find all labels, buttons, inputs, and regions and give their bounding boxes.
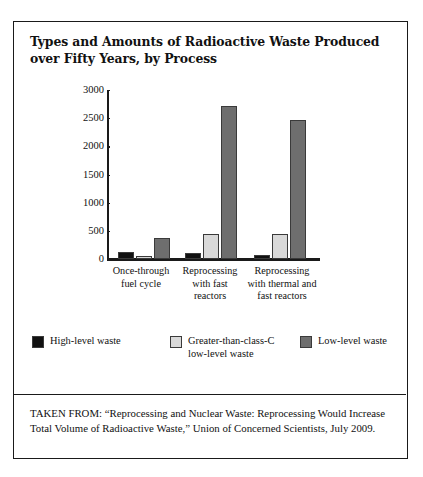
y-axis-tick-label: 1000 bbox=[60, 198, 104, 208]
y-axis-tick-label: 3000 bbox=[60, 85, 104, 95]
bar bbox=[154, 238, 170, 259]
bar bbox=[185, 253, 201, 259]
legend-label: Greater-than-class-Clow-level waste bbox=[188, 334, 274, 360]
y-axis-tick-label: 500 bbox=[60, 226, 104, 236]
bar bbox=[118, 252, 134, 259]
y-axis-tick-label: 2500 bbox=[60, 113, 104, 123]
y-axis-tick-0: 0 bbox=[54, 254, 104, 264]
legend-swatch-icon bbox=[32, 336, 44, 348]
legend-swatch-icon bbox=[300, 336, 312, 348]
legend-label: High-level waste bbox=[50, 334, 121, 347]
x-axis-category-label-line: fast reactors bbox=[232, 290, 332, 303]
y-axis-tick-label: 1500 bbox=[60, 170, 104, 180]
chart-plot-area: 050010001500200025003000 Once-throughfue… bbox=[14, 22, 409, 322]
legend-swatch-icon bbox=[170, 336, 182, 348]
y-axis-tick-3000: 3000 bbox=[54, 85, 104, 95]
y-axis-tick-mark bbox=[107, 259, 110, 260]
y-axis-tick-1500: 1500 bbox=[54, 170, 104, 180]
legend-label-line2: low-level waste bbox=[188, 347, 274, 360]
bar bbox=[290, 120, 306, 259]
x-axis-category-label: Reprocessingwith thermal andfast reactor… bbox=[232, 265, 332, 303]
bar bbox=[203, 234, 219, 259]
y-axis-tick-label: 2000 bbox=[60, 141, 104, 151]
bar bbox=[254, 255, 270, 259]
bars-layer bbox=[107, 90, 322, 259]
x-axis-category-label-line: Reprocessing bbox=[232, 265, 332, 278]
figure-container: Types and Amounts of Radioactive Waste P… bbox=[13, 21, 408, 459]
section-divider bbox=[14, 394, 406, 395]
bar bbox=[272, 234, 288, 259]
x-axis-category-label-line: Once-through bbox=[101, 265, 181, 278]
legend-label: Low-level waste bbox=[318, 334, 387, 347]
bar bbox=[136, 256, 152, 259]
y-axis-tick-2000: 2000 bbox=[54, 141, 104, 151]
y-axis-tick-label: 0 bbox=[60, 254, 104, 264]
chart-legend: High-level wasteGreater-than-class-Clow-… bbox=[32, 334, 392, 380]
y-axis-tick-500: 500 bbox=[54, 226, 104, 236]
bar bbox=[221, 106, 237, 259]
x-axis-category-label-line: with thermal and bbox=[232, 278, 332, 291]
source-citation: TAKEN FROM: “Reprocessing and Nuclear Wa… bbox=[30, 406, 390, 436]
x-axis-category-label: Once-throughfuel cycle bbox=[101, 265, 181, 290]
y-axis-tick-2500: 2500 bbox=[54, 113, 104, 123]
x-axis-category-label-line: fuel cycle bbox=[101, 278, 181, 291]
y-axis-tick-1000: 1000 bbox=[54, 198, 104, 208]
